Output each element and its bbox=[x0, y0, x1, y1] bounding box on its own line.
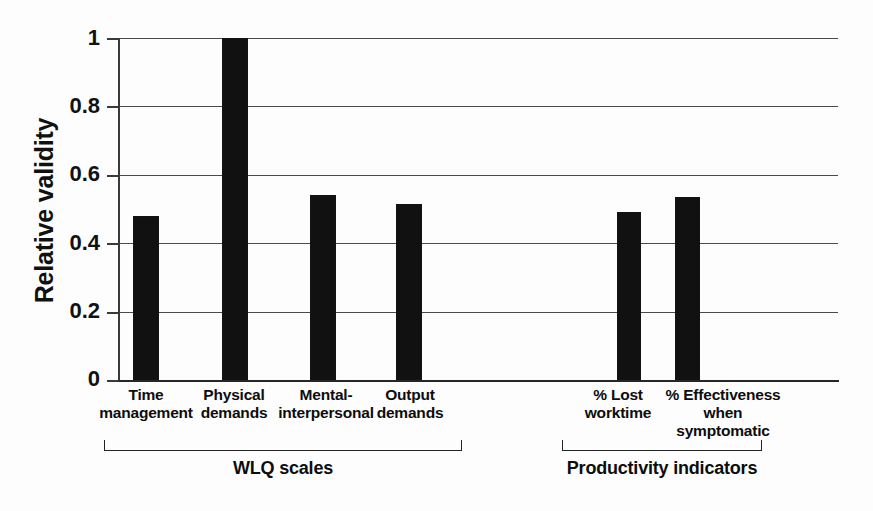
y-axis-line bbox=[118, 38, 120, 381]
category-label-percent-effectiveness-when-symptomatic: % Effectiveness when symptomatic bbox=[660, 386, 786, 440]
category-label-line: % Lost bbox=[572, 386, 664, 404]
y-tick-mark-0.4 bbox=[107, 243, 119, 245]
group-label-wlq-scales: WLQ scales bbox=[104, 458, 462, 479]
category-label-line: management bbox=[98, 404, 194, 422]
bar-percent-lost-worktime bbox=[617, 212, 641, 380]
y-tick-mark-0 bbox=[107, 380, 119, 382]
y-tick-mark-0.6 bbox=[107, 175, 119, 177]
bar-physical-demands bbox=[222, 38, 248, 380]
category-label-line: % Effectiveness bbox=[660, 386, 786, 404]
y-tick-label-0.8: 0.8 bbox=[30, 93, 100, 119]
category-label-line: Physical bbox=[188, 386, 280, 404]
bar-mental-interpersonal bbox=[310, 195, 336, 380]
y-tick-mark-0.8 bbox=[107, 106, 119, 108]
y-tick-label-0.6: 0.6 bbox=[30, 161, 100, 187]
x-axis-line bbox=[118, 380, 839, 382]
category-label-line: Time bbox=[98, 386, 194, 404]
category-label-line: symptomatic bbox=[660, 422, 786, 440]
category-label-line: when bbox=[660, 404, 786, 422]
plot-area bbox=[118, 38, 838, 380]
y-tick-label-0: 0 bbox=[30, 366, 100, 392]
category-label-line: demands bbox=[364, 404, 456, 422]
category-label-time-management: Time management bbox=[98, 386, 194, 422]
group-label-productivity-indicators: Productivity indicators bbox=[542, 458, 782, 479]
bar-time-management bbox=[133, 216, 159, 380]
y-tick-mark-0.2 bbox=[107, 312, 119, 314]
bar-chart-figure: Relative validity 1 0.8 0.6 0.4 0.2 0 Ti… bbox=[0, 0, 873, 511]
category-label-output-demands: Output demands bbox=[364, 386, 456, 422]
group-bracket-wlq-scales bbox=[104, 440, 462, 451]
group-bracket-productivity-indicators bbox=[562, 440, 762, 451]
y-tick-label-0.2: 0.2 bbox=[30, 298, 100, 324]
category-label-line: demands bbox=[188, 404, 280, 422]
category-label-physical-demands: Physical demands bbox=[188, 386, 280, 422]
y-tick-mark-1.0 bbox=[107, 38, 119, 40]
y-tick-label-1.0: 1 bbox=[30, 25, 100, 51]
category-label-line: worktime bbox=[572, 404, 664, 422]
bar-output-demands bbox=[396, 204, 422, 380]
y-tick-label-0.4: 0.4 bbox=[30, 230, 100, 256]
bar-percent-effectiveness-when-symptomatic bbox=[675, 197, 700, 380]
category-label-line: Output bbox=[364, 386, 456, 404]
category-label-percent-lost-worktime: % Lost worktime bbox=[572, 386, 664, 422]
